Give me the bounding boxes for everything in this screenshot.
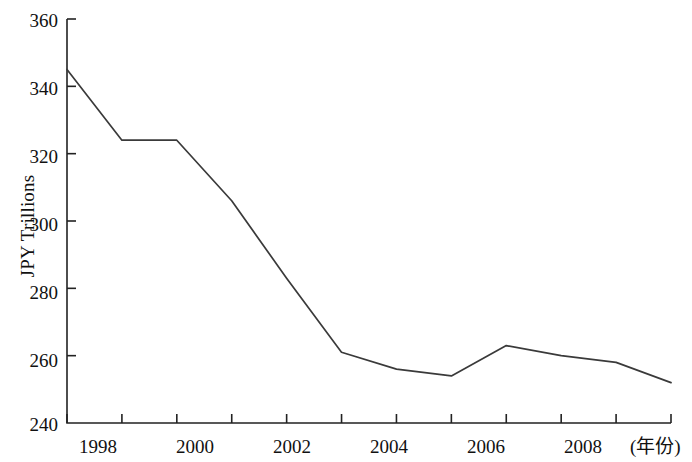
data-series-line	[67, 70, 671, 383]
x-axis-ticks	[67, 414, 671, 423]
axis-lines	[67, 19, 671, 423]
plot-area	[0, 0, 692, 462]
y-axis-ticks	[67, 19, 76, 356]
line-chart: JPY Trillions 360 340 320 300 280 260 24…	[0, 0, 692, 462]
